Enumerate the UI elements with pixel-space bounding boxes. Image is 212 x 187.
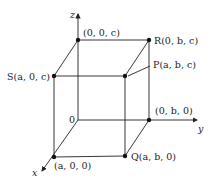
x-axis-label: x — [32, 167, 38, 178]
vertex-dots — [52, 38, 151, 159]
p-pointer-line — [128, 66, 150, 76]
box-edges — [54, 40, 149, 157]
z-axis-label: z — [69, 9, 76, 20]
point-0-b-0-label: (0, b, 0) — [155, 105, 193, 116]
rectangular-box-diagram: z y x 0 (0, 0, c) R(0, b, c) S(a, 0, c) … — [0, 0, 212, 187]
point-s-label: S(a, 0, c) — [7, 71, 50, 82]
point-q-label: Q(a, b, 0) — [131, 151, 176, 162]
point-r-label: R(0, b, c) — [154, 35, 198, 46]
y-axis-label: y — [197, 123, 204, 134]
origin-label: 0 — [69, 114, 75, 125]
point-0-0-c-label: (0, 0, c) — [83, 27, 120, 38]
point-p-label: P(a, b, c) — [153, 59, 196, 70]
point-a-0-0-label: (a, 0, 0) — [54, 160, 91, 171]
